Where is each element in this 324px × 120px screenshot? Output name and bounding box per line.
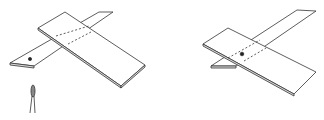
right-panel	[203, 10, 316, 96]
pin-icon	[240, 52, 244, 56]
left-panel	[10, 12, 145, 113]
pliers-icon	[30, 85, 35, 113]
hole-icon	[28, 57, 31, 60]
illustration	[0, 0, 324, 120]
